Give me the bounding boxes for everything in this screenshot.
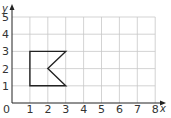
x-tick-2: 2	[44, 103, 51, 116]
axes	[12, 7, 163, 103]
y-tick-2: 2	[2, 63, 9, 76]
y-tick-4: 4	[2, 28, 9, 41]
y-axis-arrow-icon	[10, 4, 15, 10]
y-tick-3: 3	[2, 45, 9, 58]
x-tick-6: 6	[116, 103, 123, 116]
x-tick-7: 7	[134, 103, 141, 116]
x-tick-5: 5	[98, 103, 105, 116]
grid-lines	[12, 17, 155, 103]
origin-label: 0	[3, 103, 10, 116]
x-tick-1: 1	[27, 103, 34, 116]
y-tick-1: 1	[2, 80, 9, 93]
x-tick-8: 8	[152, 103, 159, 116]
coordinate-grid: y x 0 1 2 3 4 5 6 7 8 1 2 3 4 5	[0, 0, 171, 118]
x-tick-4: 4	[80, 103, 87, 116]
x-tick-3: 3	[62, 103, 69, 116]
x-axis-label: x	[159, 103, 166, 114]
y-tick-5: 5	[2, 11, 9, 24]
